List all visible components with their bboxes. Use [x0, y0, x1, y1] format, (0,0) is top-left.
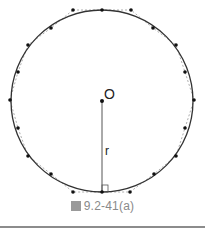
vertex-dot	[71, 8, 75, 12]
vertex-dot	[100, 190, 104, 194]
caption-text: 9.2-41(a)	[84, 199, 135, 213]
vertex-dot	[49, 26, 53, 30]
vertex-dot	[151, 26, 155, 30]
vertex-dot	[183, 70, 187, 74]
vertex-dot	[8, 98, 12, 102]
vertex-dot	[71, 190, 75, 194]
vertex-dot	[174, 154, 178, 158]
vertex-dot	[16, 70, 20, 74]
vertex-dot	[128, 190, 132, 194]
vertex-dot	[152, 172, 156, 176]
caption-glyph-icon	[71, 201, 81, 211]
vertex-dot	[192, 98, 196, 102]
vertex-dot	[174, 43, 178, 47]
circle-diagram: O r	[0, 0, 205, 231]
vertex-dot	[183, 126, 187, 130]
divider-line	[0, 226, 205, 228]
vertex-dot	[100, 8, 104, 12]
vertex-dot	[26, 43, 30, 47]
figure-caption: 9.2-41(a)	[0, 199, 205, 213]
vertex-dot	[129, 8, 133, 12]
center-label: O	[104, 86, 115, 102]
vertex-dot	[26, 154, 30, 158]
vertex-dot	[49, 172, 53, 176]
radius-label: r	[105, 144, 109, 158]
vertex-dot	[16, 126, 20, 130]
